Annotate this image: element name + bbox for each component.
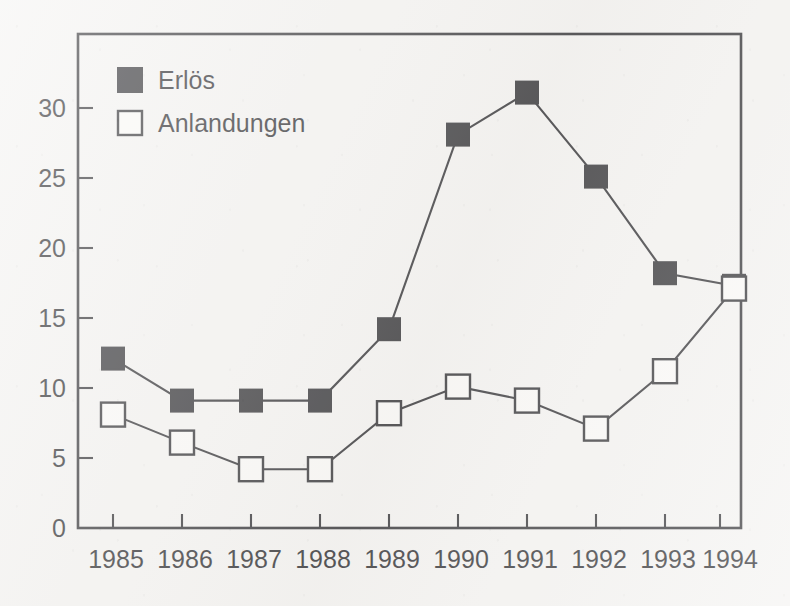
data-point-anlandungen-1993 [653, 359, 677, 383]
x-tick-label-1985: 1985 [88, 545, 144, 573]
x-tick-label-1994: 1994 [702, 545, 758, 573]
y-tick-label-30: 30 [38, 94, 66, 122]
chart-legend: Erlös Anlandungen [118, 66, 305, 137]
x-tick-label-1988: 1988 [295, 545, 351, 573]
y-tick-label-20: 20 [38, 234, 66, 262]
legend-label-anlandungen: Anlandungen [158, 109, 305, 137]
data-point-erlös-1991 [516, 82, 538, 104]
x-tick-label-1991: 1991 [502, 545, 558, 573]
data-point-anlandungen-1994 [722, 277, 746, 301]
data-point-anlandungen-1988 [308, 457, 332, 481]
series-layer [101, 82, 746, 482]
data-point-erlös-1988 [309, 390, 331, 412]
x-tick-label-1990: 1990 [433, 545, 489, 573]
legend-label-erloes: Erlös [158, 66, 215, 94]
y-tick-label-5: 5 [52, 444, 66, 472]
legend-marker-erloes [118, 68, 142, 92]
data-point-anlandungen-1989 [377, 401, 401, 425]
data-point-erlös-1985 [102, 348, 124, 370]
x-tick-label-1989: 1989 [364, 545, 420, 573]
data-point-anlandungen-1990 [446, 375, 470, 399]
chart-canvas: 30 25 20 15 10 5 0 1985 1986 1987 1988 [0, 0, 790, 606]
series-line-anlandungen [113, 289, 734, 470]
x-tick-label-1986: 1986 [157, 545, 213, 573]
x-axis-labels: 1985 1986 1987 1988 1989 1990 1991 1992 … [88, 545, 758, 573]
data-point-anlandungen-1991 [515, 389, 539, 413]
x-tick-label-1992: 1992 [571, 545, 627, 573]
x-axis-ticks [113, 514, 720, 528]
data-point-anlandungen-1992 [584, 417, 608, 441]
x-tick-label-1987: 1987 [226, 545, 282, 573]
y-tick-label-25: 25 [38, 164, 66, 192]
y-axis-labels: 30 25 20 15 10 5 0 [38, 94, 66, 542]
x-tick-label-1993: 1993 [640, 545, 696, 573]
y-axis-ticks [78, 108, 93, 458]
y-tick-label-0: 0 [52, 514, 66, 542]
y-tick-label-15: 15 [38, 304, 66, 332]
data-point-anlandungen-1987 [239, 457, 263, 481]
data-point-erlös-1986 [171, 390, 193, 412]
data-point-erlös-1989 [378, 318, 400, 340]
legend-marker-anlandungen [118, 111, 142, 135]
series-line-erlös [113, 93, 734, 401]
line-chart: 30 25 20 15 10 5 0 1985 1986 1987 1988 [0, 0, 790, 606]
data-point-anlandungen-1986 [170, 431, 194, 455]
data-point-erlös-1987 [240, 390, 262, 412]
data-point-erlös-1992 [585, 166, 607, 188]
data-point-erlös-1993 [654, 262, 676, 284]
data-point-anlandungen-1985 [101, 403, 125, 427]
data-point-erlös-1990 [447, 124, 469, 146]
y-tick-label-10: 10 [38, 374, 66, 402]
